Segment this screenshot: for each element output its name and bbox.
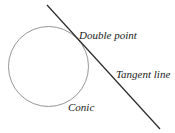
diagram-canvas: Double point Tangent line Conic bbox=[0, 0, 175, 133]
conic-circle bbox=[9, 27, 89, 107]
tangent-line-label: Tangent line bbox=[116, 69, 170, 80]
double-point-label: Double point bbox=[79, 30, 137, 41]
tangent-line bbox=[47, 5, 160, 129]
diagram-graphics bbox=[0, 0, 175, 133]
conic-label: Conic bbox=[68, 102, 94, 113]
